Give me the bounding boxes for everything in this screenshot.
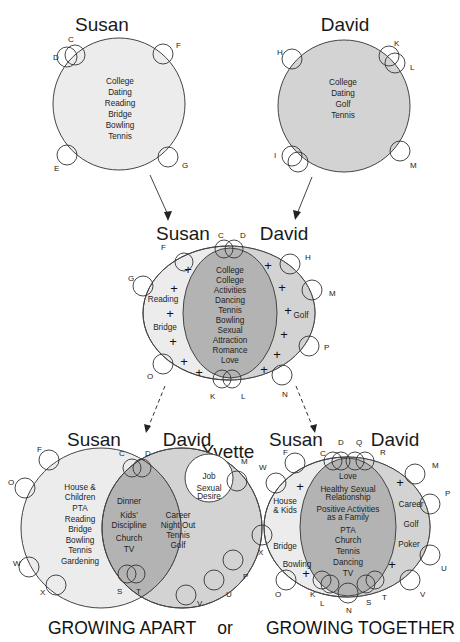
plus-icon: + xyxy=(184,262,192,277)
shared-item: Romance xyxy=(212,346,247,355)
middle-group: Susan David C D F G O K L N H M P Readin xyxy=(128,223,336,401)
friend-label-c: C xyxy=(218,231,224,240)
shared-item: Attraction xyxy=(213,336,248,345)
friend-label-k: K xyxy=(394,39,400,48)
david-item: Golf xyxy=(170,541,186,550)
plus-icon: + xyxy=(166,306,174,321)
plus-icon: + xyxy=(273,347,281,362)
plus-icon: + xyxy=(396,475,404,490)
shared-item: Relationship xyxy=(325,493,371,502)
friend-label-p: P xyxy=(324,343,329,352)
footer-growing-apart: GROWING APART xyxy=(48,618,196,638)
friend-label-f: F xyxy=(283,448,288,457)
susan-item: Bridge xyxy=(273,542,297,551)
friend-label-k: K xyxy=(210,392,216,401)
yvette-item: Job xyxy=(202,472,216,481)
friend-label-o: O xyxy=(147,372,153,381)
friend-label-l: L xyxy=(320,599,325,608)
plus-icon: + xyxy=(278,280,286,295)
item: College xyxy=(106,77,134,86)
plus-icon: + xyxy=(195,365,203,380)
susan-item: Bridge xyxy=(153,323,177,332)
plus-icon: + xyxy=(280,327,288,342)
friend-label-c: C xyxy=(68,35,74,44)
shared-item: Bowling xyxy=(216,316,245,325)
friend-label-d: D xyxy=(53,53,59,62)
shared-item: College xyxy=(216,266,244,275)
item: Tennis xyxy=(108,132,132,141)
susan-item: Children xyxy=(65,493,96,502)
top-susan-group: Susan C D F E G College Dating Reading B… xyxy=(53,14,188,173)
item: College xyxy=(329,78,357,87)
plus-icon: + xyxy=(284,303,292,318)
item: Dating xyxy=(108,88,132,97)
item: Dating xyxy=(331,89,355,98)
friend-label-d: D xyxy=(240,231,246,240)
friend-label-t: T xyxy=(382,593,387,602)
shared-item: Tennis xyxy=(336,547,360,556)
footer: GROWING APART or GROWING TOGETHER xyxy=(48,618,455,638)
merge-arrows xyxy=(150,175,312,221)
shared-item: Kids' xyxy=(120,511,138,520)
shared-item: Dancing xyxy=(333,558,363,567)
item: Reading xyxy=(105,99,136,108)
growing-apart-group: Susan David Yvette F O W X C D S T xyxy=(8,429,262,608)
david-item: Career xyxy=(165,511,190,520)
friend-label-l: L xyxy=(410,63,415,72)
friend-label-w: W xyxy=(259,463,267,472)
relationship-diagram: Susan C D F E G College Dating Reading B… xyxy=(0,0,460,642)
friend-label-x: X xyxy=(258,548,264,557)
shared-item: Discipline xyxy=(111,521,146,530)
middle-shared-items: College College Activities Dancing Tenni… xyxy=(212,266,247,365)
david-item: Tennis xyxy=(166,531,190,540)
yvette-item: Desire xyxy=(197,492,221,501)
item: Bowling xyxy=(106,121,135,130)
friend-label-d: D xyxy=(145,449,151,458)
plus-icon: + xyxy=(180,354,188,369)
friend-label-q: Q xyxy=(356,438,362,447)
david-item: Golf xyxy=(293,311,309,320)
growing-together-group: Susan David F W X O C xyxy=(252,429,450,615)
friend-label-x: X xyxy=(40,588,46,597)
friend-label-p: P xyxy=(445,489,450,498)
shared-item: Dinner xyxy=(117,497,141,506)
shared-item: Tennis xyxy=(218,306,242,315)
friend-label-t: T xyxy=(136,587,141,596)
top-david-group: David H K L I M College Dating Golf Tenn… xyxy=(274,14,417,172)
david-item: Night Out xyxy=(161,521,196,530)
friend-label-u: U xyxy=(441,564,447,573)
friend-label-l: L xyxy=(241,392,246,401)
plus-icon: + xyxy=(260,362,268,377)
shared-item: Love xyxy=(221,356,239,365)
friend-label-m: M xyxy=(241,457,248,466)
item: Tennis xyxy=(331,111,355,120)
friend-label-m: M xyxy=(329,289,336,298)
friend-label-g: G xyxy=(182,161,188,170)
friend-label-k: K xyxy=(310,590,316,599)
friend-label-m: M xyxy=(410,161,417,170)
shared-item: TV xyxy=(124,545,135,554)
susan-item: Gardening xyxy=(61,557,100,566)
shared-item: College xyxy=(216,276,244,285)
susan-item: Bridge xyxy=(68,525,92,534)
friend-label-r: R xyxy=(380,448,386,457)
shared-item: PTA xyxy=(340,526,356,535)
susan-item: House xyxy=(273,497,297,506)
friend-label-f: F xyxy=(176,41,181,50)
top-susan-name: Susan xyxy=(75,14,129,35)
plus-icon: + xyxy=(296,479,304,494)
friend-label-v: V xyxy=(420,590,426,599)
arrow-head-icon xyxy=(164,211,172,221)
footer-growing-together: GROWING TOGETHER xyxy=(266,618,455,638)
friend-label-p: P xyxy=(243,572,248,581)
friend-label-d: D xyxy=(338,438,344,447)
together-susan-name: Susan xyxy=(269,429,323,450)
shared-item: as a Family xyxy=(327,513,370,522)
shared-item: Sexual xyxy=(217,326,242,335)
friend-label-f: F xyxy=(161,243,166,252)
friend-label-s: S xyxy=(117,587,122,596)
plus-icon: + xyxy=(302,566,310,581)
friend-label-n: N xyxy=(282,390,288,399)
david-item: Poker xyxy=(398,540,420,549)
arrow-head-icon xyxy=(144,424,151,433)
